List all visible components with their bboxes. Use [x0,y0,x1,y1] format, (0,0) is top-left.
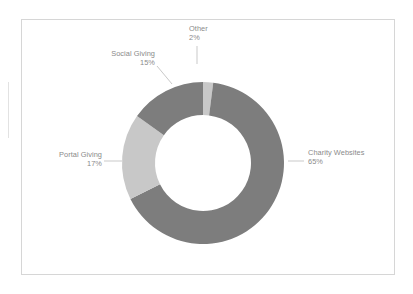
slice-label-charity-websites-value: 65% [308,157,365,166]
leader-line-social-giving [157,66,172,84]
slice-label-portal-giving: Portal Giving 17% [33,150,102,168]
slice-label-charity-websites-name: Charity Websites [308,148,365,157]
slice-label-other-value: 2% [189,33,208,42]
slice-label-other-name: Other [189,24,208,33]
slice-label-social-giving-value: 15% [83,58,155,67]
slice-label-social-giving: Social Giving 15% [83,49,155,67]
slice-label-portal-giving-name: Portal Giving [33,150,102,159]
slice-label-social-giving-name: Social Giving [83,49,155,58]
slice-label-portal-giving-value: 17% [33,159,102,168]
donut-chart-graphic [0,0,413,294]
donut-chart-figure: Other 2% Social Giving 15% Portal Giving… [0,0,413,294]
slice-label-other: Other 2% [189,24,208,42]
slice-label-charity-websites: Charity Websites 65% [308,148,365,166]
